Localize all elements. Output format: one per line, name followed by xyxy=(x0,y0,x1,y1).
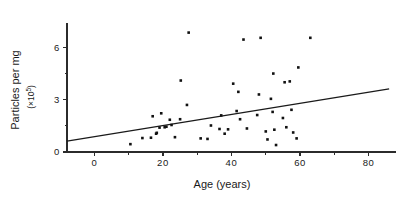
data-point xyxy=(270,98,273,101)
data-point xyxy=(141,137,144,140)
x-axis-title: Age (years) xyxy=(194,178,251,190)
data-point-group xyxy=(129,31,312,146)
data-point xyxy=(292,131,295,134)
data-point xyxy=(179,79,182,82)
data-point xyxy=(271,111,274,114)
y-tick-label: 3 xyxy=(54,94,60,105)
data-point xyxy=(174,136,177,139)
data-point xyxy=(223,132,226,135)
data-point xyxy=(206,138,209,141)
data-point xyxy=(239,118,242,121)
x-tick-label: 80 xyxy=(363,157,375,168)
y-axis-units-close: ) xyxy=(26,85,36,88)
data-point xyxy=(235,110,238,113)
data-point xyxy=(282,117,285,120)
data-point xyxy=(259,37,262,40)
y-axis-ticks xyxy=(63,47,67,152)
x-axis-ticks xyxy=(94,152,368,156)
data-point xyxy=(232,82,235,85)
regression-trend-line xyxy=(67,89,389,141)
data-point xyxy=(218,128,221,131)
data-point xyxy=(227,128,230,131)
data-point xyxy=(272,72,275,75)
data-point xyxy=(155,132,158,135)
data-point xyxy=(285,126,288,129)
data-point xyxy=(288,80,291,83)
data-point xyxy=(297,66,300,69)
data-point xyxy=(129,143,132,146)
data-point xyxy=(290,109,293,112)
data-point xyxy=(151,115,154,118)
data-point xyxy=(266,138,269,141)
data-point xyxy=(210,124,213,127)
data-point xyxy=(264,130,267,133)
data-point xyxy=(256,114,259,117)
x-tick-label: 60 xyxy=(294,157,306,168)
y-tick-label: 6 xyxy=(54,42,60,53)
x-axis-tick-labels: 020406080 xyxy=(91,157,374,168)
y-axis-title-group: Particles per mg (×105) xyxy=(9,50,36,129)
data-point xyxy=(258,93,261,96)
data-point xyxy=(158,126,161,129)
plot-area: 036 020406080 xyxy=(54,23,396,168)
data-point xyxy=(242,38,245,41)
data-point xyxy=(170,124,173,127)
data-point xyxy=(283,81,286,84)
data-point xyxy=(199,137,202,140)
data-point xyxy=(246,127,249,130)
data-point xyxy=(179,118,182,121)
x-tick-label: 20 xyxy=(157,157,169,168)
data-point xyxy=(186,104,189,107)
data-point xyxy=(187,31,190,34)
y-axis-units-base: (×10 xyxy=(26,91,36,109)
data-point xyxy=(237,91,240,94)
data-point xyxy=(273,128,276,131)
scatter-plot-svg: 036 020406080 Age (years) Particles per … xyxy=(0,0,411,198)
data-point xyxy=(150,136,153,139)
y-axis-tick-labels: 036 xyxy=(54,42,60,158)
y-axis-title: Particles per mg xyxy=(9,50,21,129)
chart-figure: 036 020406080 Age (years) Particles per … xyxy=(0,0,411,198)
data-point xyxy=(220,114,223,117)
x-tick-label: 40 xyxy=(226,157,238,168)
data-point xyxy=(165,125,168,128)
y-tick-label: 0 xyxy=(54,146,60,157)
y-axis-units: (×105) xyxy=(25,85,37,109)
x-axis-title-group: Age (years) xyxy=(194,178,251,190)
data-point xyxy=(309,37,312,40)
data-point xyxy=(169,118,172,121)
data-point xyxy=(160,112,163,115)
x-tick-label: 0 xyxy=(91,157,97,168)
data-point xyxy=(275,144,278,147)
data-point xyxy=(295,137,298,140)
